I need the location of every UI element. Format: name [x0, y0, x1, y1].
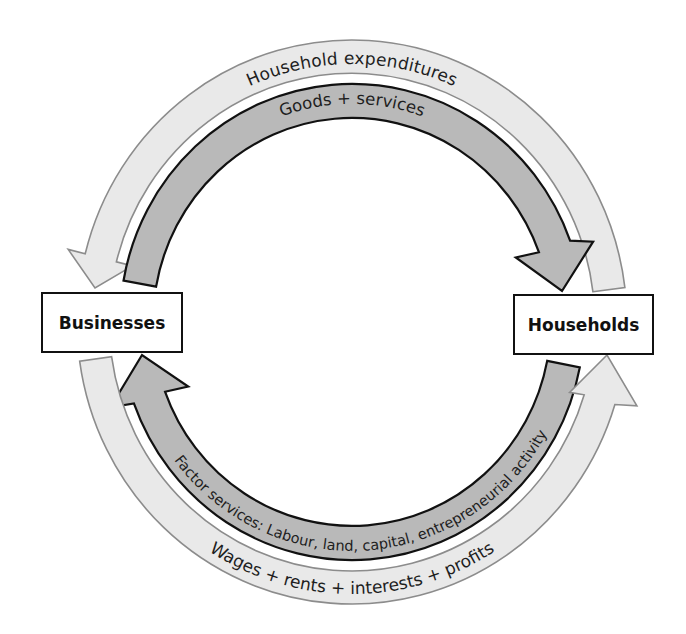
businesses-label: Businesses: [59, 313, 166, 333]
businesses-node: Businesses: [41, 292, 183, 353]
households-node: Households: [513, 294, 654, 355]
households-label: Households: [528, 315, 640, 335]
